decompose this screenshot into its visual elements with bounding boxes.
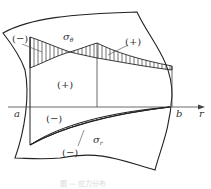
- label-pos-top: (+): [125, 36, 141, 47]
- label-neg-middle: (−): [46, 113, 62, 124]
- figure-caption: 图 — 应力分布: [60, 179, 106, 188]
- body-boundary: [3, 12, 172, 170]
- stress-diagram: (−) σθ (+) (+) (−) (−) σr a b r 图 — 应力分布: [0, 0, 211, 189]
- axis-label-b: b: [176, 108, 182, 119]
- label-sigma-theta: σθ: [63, 31, 74, 43]
- diagram-svg: (−) σθ (+) (+) (−) (−) σr a b r 图 — 应力分布: [0, 0, 211, 189]
- axis-label-a: a: [14, 108, 20, 119]
- label-pos-middle: (+): [57, 79, 73, 90]
- label-sigma-r: σr: [93, 134, 104, 146]
- leader-neg-bottom: [78, 130, 84, 146]
- axis-label-r: r: [199, 108, 205, 119]
- label-neg-top: (−): [12, 33, 28, 44]
- label-neg-bottom: (−): [62, 147, 78, 158]
